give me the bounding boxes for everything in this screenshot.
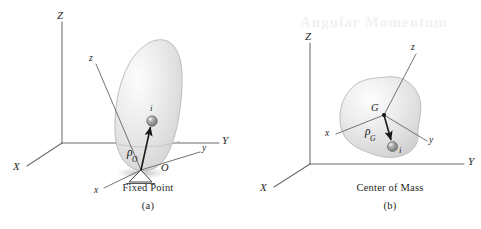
- panel-a-axis-label-Y: Y: [222, 135, 228, 146]
- panel-b-axis-label-X: X: [260, 182, 267, 193]
- panel-a-axis-label-Z: Z: [57, 10, 63, 21]
- panel-a-origin-label-O: O: [161, 163, 169, 174]
- panel-b-caption-title: Center of Mass: [330, 182, 450, 193]
- particle-i-a: [147, 116, 157, 126]
- panel-a-graphics: [27, 22, 219, 188]
- panel-b-origin-label-G: G: [371, 103, 379, 114]
- panel-a-axis-label-y: y: [202, 144, 206, 154]
- panel-a-caption-title: Fixed Point: [88, 182, 208, 193]
- rho-subscript-b: G: [370, 134, 375, 143]
- panel-a-particle-label-i: i: [150, 104, 153, 113]
- panel-b-vector-label-rho-G: ρG: [365, 122, 376, 141]
- panel-a-axis-label-X: X: [13, 161, 20, 172]
- panel-b-axis-label-y: y: [429, 136, 433, 146]
- particle-i-a-highlight: [149, 118, 152, 121]
- panel-b-graphics: [274, 43, 464, 187]
- particle-i-b: [388, 142, 398, 152]
- panel-a-vector-label-rho-O: ρO: [127, 143, 138, 162]
- rho-subscript-a: O: [132, 155, 137, 164]
- panel-b-axis-label-x: x: [325, 129, 329, 139]
- particle-i-b-highlight: [389, 144, 392, 146]
- panel-b-axis-label-Z: Z: [305, 31, 311, 42]
- diagram-canvas: [0, 0, 481, 229]
- panel-b-axis-label-z: z: [411, 43, 415, 53]
- panel-a-axis-label-z: z: [89, 54, 93, 64]
- axis-X-line-b: [274, 164, 310, 187]
- rigid-body-b: [340, 77, 421, 158]
- panel-b-particle-label-i: i: [399, 146, 402, 155]
- rigid-body-a: [115, 40, 182, 171]
- panel-b-caption-number: (b): [330, 200, 450, 211]
- figure-root: Angular Momentum: [0, 0, 481, 229]
- axis-X-line: [27, 143, 62, 166]
- panel-a-caption-number: (a): [88, 200, 208, 211]
- panel-b-axis-label-Y: Y: [468, 156, 474, 167]
